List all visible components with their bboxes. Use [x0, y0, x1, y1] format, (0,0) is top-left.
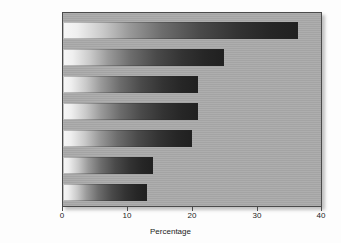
x-tick-label-40: 40: [309, 211, 333, 221]
bar-spain: [63, 103, 198, 120]
plot-area: [62, 12, 322, 207]
bar-germany: [63, 49, 224, 66]
bar-sweden: [63, 157, 153, 174]
bar-chart-figure: UK Germany Netherlands Spain France Swed…: [0, 0, 341, 243]
bar-italy: [63, 184, 147, 201]
bar-netherlands: [63, 76, 198, 93]
x-tick-label-10: 10: [115, 211, 139, 221]
x-tick-label-30: 30: [245, 211, 269, 221]
x-axis-title: Percentage: [0, 227, 341, 236]
x-tick-label-0: 0: [50, 211, 74, 221]
bar-france: [63, 130, 192, 147]
x-tick-label-20: 20: [180, 211, 204, 221]
bar-uk: [63, 22, 298, 39]
